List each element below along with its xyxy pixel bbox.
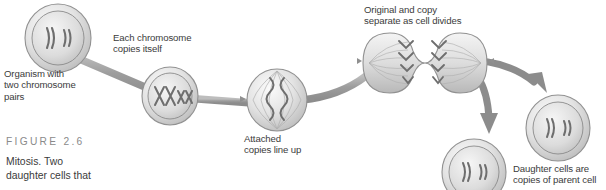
label-copied-cell: Each chromosome copies itself bbox=[113, 32, 191, 55]
label-parent-cell: Organism with two chromosome pairs bbox=[4, 68, 76, 102]
label-dividing-cell: Original and copy separate as cell divid… bbox=[364, 4, 461, 27]
figure-number: FIGURE 2.6 bbox=[6, 136, 84, 147]
label-daughter-cells: Daughter cells are copies of parent cell bbox=[513, 163, 596, 186]
cell-aligned bbox=[240, 69, 314, 131]
figure-caption-line-1: Mitosis. Two bbox=[6, 156, 63, 167]
connector-aligned-to-dividing bbox=[302, 76, 366, 100]
figure-mitosis-diagram: Organism with two chromosome pairs Each … bbox=[0, 0, 606, 190]
figure-caption-line-2: daughter cells that bbox=[6, 170, 91, 181]
label-aligned-cell: Attached copies line up bbox=[244, 133, 301, 156]
cell-dividing bbox=[357, 33, 494, 93]
figure-caption: Mitosis. Two daughter cells that bbox=[6, 155, 91, 182]
cell-daughter-lower bbox=[442, 139, 506, 190]
cell-parent bbox=[25, 4, 91, 72]
cell-daughter-upper bbox=[526, 95, 590, 161]
cell-copied bbox=[142, 67, 198, 125]
